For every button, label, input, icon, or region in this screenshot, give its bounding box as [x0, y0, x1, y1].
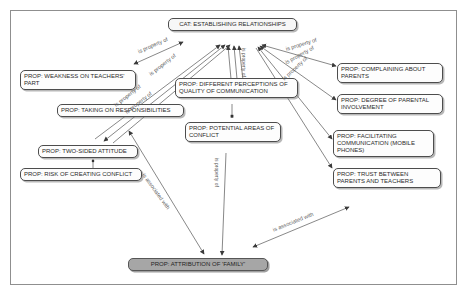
node-prop-different-perceptions-of-quality-of-communication: PROP: DIFFERENT PERCEPTIONS OF QUALITY O…	[175, 78, 298, 98]
node-prop-complaining-about-parents: PROP: COMPLAINING ABOUT PARENTS	[337, 63, 443, 83]
connector-dot-square	[231, 115, 234, 118]
node-prop-potential-areas-of-conflict: PROP: POTENTIAL AREAS OF CONFLICT	[185, 122, 281, 142]
node-prop-facilitating-communication-mobile-phones: PROP: FACILITATING COMMUNICATION (MOBILE…	[333, 130, 434, 157]
edge-label-is-property-of: is property of	[241, 48, 247, 77]
node-prop-trust-between-parents-and-teachers: PROP: TRUST BETWEEN PARENTS AND TEACHERS	[333, 168, 441, 188]
node-prop-taking-on-responsibilities: PROP: TAKING ON RESPONSIBILITIES	[57, 104, 184, 117]
node-prop-degree-of-parental-involvement: PROP: DEGREE OF PARENTAL INVOLVEMENT	[337, 94, 443, 114]
edge-taking-attribution	[129, 131, 204, 254]
node-prop-two-sided-attitude: PROP: TWO-SIDED ATTITUDE	[38, 145, 138, 158]
node-prop-attribution-of-family: PROP: ATTRIBUTION OF 'FAMILY'	[128, 258, 268, 271]
connector-dot	[92, 160, 95, 163]
node-prop-risk-of-creating-conflict: PROP: RISK OF CREATING CONFLICT	[20, 168, 142, 181]
edge-label-is-property-of: is property of	[214, 158, 220, 187]
edge-diffperc-cat	[228, 46, 231, 79]
edge-potential-attribution	[222, 153, 226, 255]
node-prop-weakness-on-teachers-part: PROP: WEAKNESS ON TEACHERS' PART	[20, 70, 136, 90]
edge-diffperc-cat-2	[234, 46, 237, 79]
edge-attribution-trust	[253, 207, 349, 247]
node-cat-establishing-relationships: CAT: ESTABLISHING RELATIONSHIPS	[168, 18, 297, 31]
concept-map-canvas: CAT: ESTABLISHING RELATIONSHIPS PROP: WE…	[0, 0, 466, 294]
